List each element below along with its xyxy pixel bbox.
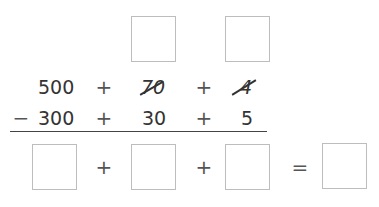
plus-sign: +: [194, 156, 214, 178]
subtrahend-tens: 30: [142, 107, 166, 129]
subtrahend-ones: 5: [241, 107, 253, 129]
regroup-tens-box[interactable]: [131, 16, 176, 62]
tens-answer-box[interactable]: [131, 144, 176, 190]
regroup-ones-box[interactable]: [225, 16, 270, 62]
minus-sign: −: [11, 107, 31, 129]
subtraction-line: [10, 131, 267, 132]
plus-sign: +: [194, 76, 214, 98]
ones-answer-box[interactable]: [225, 144, 270, 190]
subtrahend-hundreds: 300: [38, 107, 74, 129]
plus-sign: +: [94, 156, 114, 178]
hundreds-answer-box[interactable]: [32, 144, 77, 190]
minuend-hundreds: 500: [38, 76, 74, 98]
plus-sign: +: [94, 76, 114, 98]
equals-sign: =: [290, 156, 310, 178]
total-answer-box[interactable]: [322, 143, 367, 189]
plus-sign: +: [94, 107, 114, 129]
plus-sign: +: [194, 107, 214, 129]
